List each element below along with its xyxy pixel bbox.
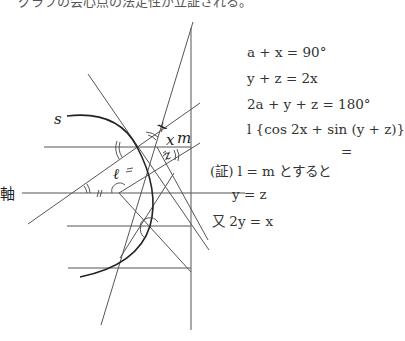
angle-mark-left-2 xyxy=(116,141,119,159)
angle-mark-lower-2 xyxy=(140,226,145,238)
proof-line3-eq: 2y = x xyxy=(229,213,273,229)
label-axis: 軸 xyxy=(0,185,15,203)
angle-mark-left-1 xyxy=(119,142,122,157)
equation-2: y + z = 2x xyxy=(247,70,318,86)
label-m: m xyxy=(177,129,191,147)
angle-mark-axis-2 xyxy=(87,184,90,193)
equation-5: = xyxy=(341,143,352,159)
tick-mark xyxy=(126,171,132,172)
q-lower-line xyxy=(119,193,191,272)
angle-mark-axis-1 xyxy=(84,186,87,193)
label-s: s xyxy=(54,110,62,128)
equation-1: a + x = 90° xyxy=(247,44,326,60)
angle-mark-z-2 xyxy=(177,149,179,161)
proof-line-1: (証) l = m とすると xyxy=(210,160,331,180)
equation-3: 2a + y + z = 180° xyxy=(247,96,371,112)
secondary-line xyxy=(120,173,174,258)
label-ell: ℓ xyxy=(113,165,119,183)
proof-prefix: (証) xyxy=(210,163,234,179)
proof-line-2: y = z xyxy=(232,186,267,202)
angle-mark-q xyxy=(112,183,125,193)
proof-line-3: 又 2y = x xyxy=(212,210,273,230)
equation-4: l {cos 2x + sin (y + z)} xyxy=(247,121,405,137)
proof-statement: l = m とすると xyxy=(238,163,331,179)
proof-line3-prefix: 又 xyxy=(212,213,225,229)
tick-mark xyxy=(127,168,133,169)
